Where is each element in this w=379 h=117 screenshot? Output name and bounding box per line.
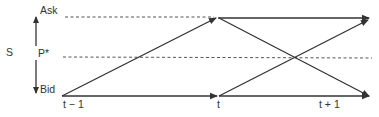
spread-label: S — [6, 46, 13, 58]
time-label-t-plus-1: t + 1 — [319, 98, 340, 110]
mid-price-label: P* — [38, 47, 49, 59]
bid-ask-diagram: S Ask P* Bid t − 1 t t + 1 — [0, 0, 379, 117]
time-label-t: t — [217, 98, 220, 110]
bid-label: Bid — [40, 83, 55, 95]
mid-dashed-line — [63, 57, 372, 58]
time-label-t-minus-1: t − 1 — [63, 98, 84, 110]
ask-label: Ask — [40, 4, 58, 16]
